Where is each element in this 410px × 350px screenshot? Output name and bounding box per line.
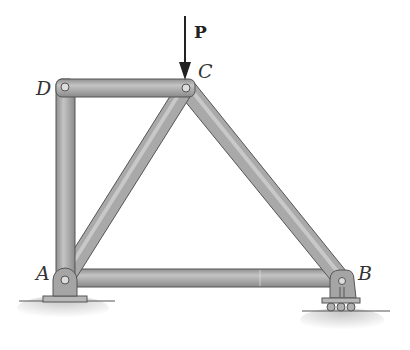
joint-c-pin bbox=[182, 84, 190, 92]
joint-label-d: D bbox=[35, 77, 51, 99]
member-ab bbox=[70, 269, 334, 287]
truss-diagram: P C D A B bbox=[0, 0, 410, 350]
joint-d-pin bbox=[61, 83, 69, 91]
load-label: P bbox=[194, 22, 207, 42]
joint-label-c: C bbox=[198, 60, 213, 82]
joint-label-a: A bbox=[34, 262, 50, 284]
member-ad bbox=[56, 79, 75, 283]
member-dc bbox=[56, 79, 195, 97]
ground-b bbox=[300, 308, 390, 332]
member-ac bbox=[59, 82, 193, 283]
member-cb bbox=[180, 80, 346, 284]
load-arrow-p bbox=[179, 16, 191, 80]
joint-label-b: B bbox=[357, 262, 372, 284]
